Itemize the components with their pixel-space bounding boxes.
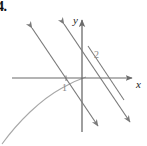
label-2: 2 xyxy=(94,49,99,60)
parabola-curve xyxy=(2,77,86,144)
line-left xyxy=(32,28,98,126)
line-middle xyxy=(64,24,130,122)
x-axis-label: x xyxy=(135,78,141,90)
label-1: 1 xyxy=(62,82,67,93)
figure-container: 4. y x 1 2 xyxy=(0,0,147,146)
graph-svg: y x 1 2 xyxy=(0,0,147,146)
y-axis-label: y xyxy=(72,14,78,26)
